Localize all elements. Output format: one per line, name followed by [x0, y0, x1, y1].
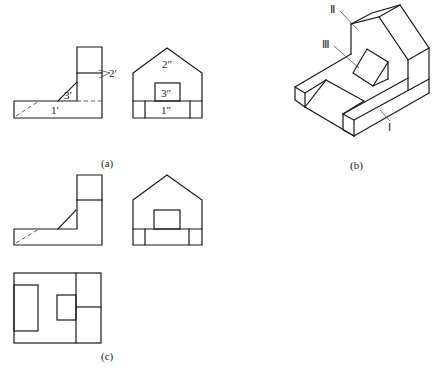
hidden-slope-line: [16, 101, 39, 116]
view-c-front-projection: [14, 175, 102, 245]
label-2-prime: 2′: [109, 67, 117, 79]
leader-I: [380, 110, 390, 121]
label-III: Ⅲ: [322, 38, 330, 50]
hidden-slope-line-c: [16, 229, 39, 243]
wall-top-ridge: [379, 5, 400, 17]
leader-II: [340, 11, 358, 30]
view-b-isometric: Ⅱ Ⅲ Ⅰ: [295, 3, 429, 136]
left-prism-slope: [305, 80, 326, 107]
leader-III: [334, 46, 359, 68]
technical-drawing: 2′ 3′ 1′ 2″ 3″ 1″ (a): [0, 0, 442, 373]
label-2-double-prime: 2″: [162, 58, 172, 70]
front-block-face: [343, 114, 354, 136]
view-c-top-projection: [14, 273, 101, 343]
label-3-double-prime: 3″: [161, 87, 171, 99]
caption-b: (b): [350, 159, 363, 172]
notch-rect-top: [14, 285, 38, 331]
notch-edges: [326, 80, 364, 114]
label-1-double-prime: 1″: [161, 104, 171, 116]
view-a-front-projection: 2′ 3′ 1′: [14, 47, 117, 118]
label-II: Ⅱ: [330, 3, 335, 15]
left-block-top-edge: [305, 80, 326, 93]
prism-slope-line-c: [58, 210, 76, 229]
view-c-side-projection: [133, 175, 202, 245]
label-3-prime: 3′: [64, 89, 72, 101]
view-a-side-projection: 2″ 3″ 1″: [133, 48, 202, 118]
wall-front-face: [351, 17, 408, 90]
wall-shoulder-edge: [408, 48, 429, 60]
caption-c: (c): [101, 350, 114, 363]
prism-rect-top: [57, 295, 76, 320]
front-outline-c: [14, 175, 102, 245]
label-I: Ⅰ: [388, 121, 391, 133]
prism-rect-c: [154, 210, 180, 229]
caption-a: (a): [101, 157, 114, 170]
left-block-face: [295, 87, 305, 107]
label-1-prime: 1′: [51, 104, 59, 116]
